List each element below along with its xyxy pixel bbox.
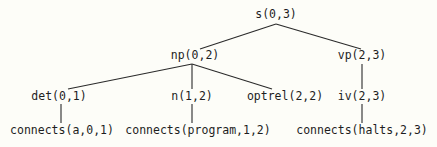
node-np: np(0,2): [171, 50, 219, 62]
node-det: det(0,1): [31, 91, 86, 103]
leaf-connects-program: connects(program,1,2): [125, 125, 270, 137]
parse-tree-diagram: s(0,3) np(0,2) vp(2,3) det(0,1) n(1,2) o…: [0, 0, 437, 147]
edge-np-optrel: [192, 64, 272, 89]
node-s: s(0,3): [255, 9, 297, 21]
node-iv: iv(2,3): [338, 91, 386, 103]
leaf-connects-halts: connects(halts,2,3): [296, 125, 428, 137]
node-optrel: optrel(2,2): [247, 91, 323, 103]
edge-s-np: [200, 24, 276, 49]
node-vp: vp(2,3): [338, 50, 386, 62]
leaf-connects-a: connects(a,0,1): [10, 125, 114, 137]
node-n: n(1,2): [171, 91, 213, 103]
edge-s-vp: [276, 24, 361, 49]
edge-np-det: [68, 64, 192, 89]
